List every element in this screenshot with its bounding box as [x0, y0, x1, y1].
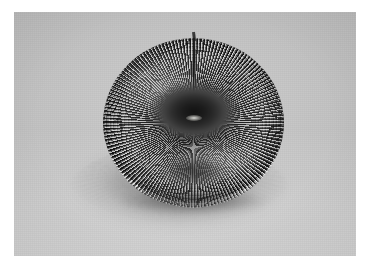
photo-vignette: [14, 12, 356, 256]
screenshot-canvas: [0, 0, 371, 270]
photograph: [14, 12, 356, 256]
